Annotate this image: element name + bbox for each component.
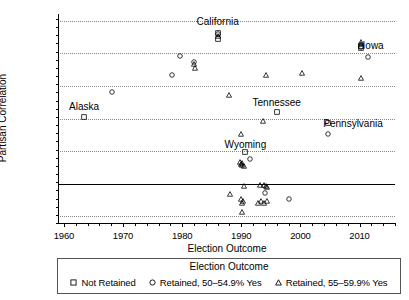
data-point-triangle	[260, 118, 266, 124]
x-tick-minor	[253, 223, 254, 226]
data-point-circle	[246, 156, 252, 162]
x-tick-major	[64, 223, 65, 227]
data-point-triangle	[241, 183, 247, 189]
x-tick-minor	[312, 223, 313, 226]
x-tick-label: 1990	[231, 230, 251, 241]
y-tick-minor	[56, 52, 59, 53]
data-point-circle	[109, 89, 115, 95]
x-tick-label: 1970	[113, 230, 133, 241]
y-tick-minor	[56, 133, 59, 134]
y-axis-spine	[58, 14, 59, 223]
data-point-triangle	[241, 163, 247, 169]
x-tick-minor	[348, 223, 349, 226]
data-point-circle	[365, 54, 371, 60]
y-tick-minor	[56, 158, 59, 159]
data-point-square	[274, 109, 280, 115]
data-point-triangle	[215, 33, 221, 39]
y-tick-minor	[56, 207, 59, 208]
annotation-label: Iowa	[363, 40, 384, 51]
x-tick-minor	[371, 223, 372, 226]
y-tick-minor	[56, 19, 59, 20]
chart-legend: Election Outcome Not RetainedRetained, 5…	[57, 258, 401, 294]
x-axis-label: Election Outcome	[188, 243, 267, 254]
plot-area: CaliforniaIowaAlaskaTennesseePennsylvani…	[58, 14, 395, 223]
x-tick-minor	[111, 223, 112, 226]
y-tick-minor	[56, 43, 59, 44]
data-point-triangle	[262, 72, 268, 78]
data-point-triangle	[264, 184, 270, 190]
chart-figure: Partisan Correlation Election Outcome Ca…	[0, 0, 409, 300]
y-tick-minor	[56, 125, 59, 126]
x-tick-minor	[229, 223, 230, 226]
y-tick-minor	[56, 84, 59, 85]
x-tick-minor	[324, 223, 325, 226]
x-tick-minor	[88, 223, 89, 226]
grid-line-y	[58, 86, 395, 87]
x-tick-minor	[277, 223, 278, 226]
grid-line-y	[58, 53, 395, 54]
data-point-circle	[325, 131, 331, 137]
data-point-triangle	[227, 191, 233, 197]
x-tick-major	[123, 223, 124, 227]
x-tick-minor	[99, 223, 100, 226]
y-tick-minor	[56, 92, 59, 93]
data-point-triangle	[191, 65, 197, 71]
x-tick-label: 1960	[54, 230, 74, 241]
y-tick-minor	[56, 150, 59, 151]
annotation-label: Alaska	[69, 101, 99, 112]
x-tick-label: 2010	[349, 230, 369, 241]
legend-item-circle: Retained, 50–54.9% Yes	[149, 277, 262, 288]
y-tick-minor	[56, 166, 59, 167]
x-axis-spine	[58, 223, 395, 224]
x-tick-major	[182, 223, 183, 227]
legend-item-label: Retained, 50–54.9% Yes	[160, 277, 262, 288]
x-tick-minor	[159, 223, 160, 226]
y-tick-minor	[56, 101, 59, 102]
data-point-circle	[262, 190, 268, 196]
y-tick-minor	[56, 141, 59, 142]
y-tick-minor	[56, 27, 59, 28]
legend-item-triangle: Retained, 55–59.9% Yes	[275, 277, 388, 288]
data-point-triangle	[358, 75, 364, 81]
data-point-circle	[169, 72, 175, 78]
data-point-triangle	[239, 200, 245, 206]
data-point-square	[242, 149, 248, 155]
x-tick-minor	[265, 223, 266, 226]
x-tick-minor	[336, 223, 337, 226]
y-tick-minor	[56, 174, 59, 175]
y-tick-minor	[56, 60, 59, 61]
y-tick-minor	[56, 109, 59, 110]
data-point-triangle	[298, 70, 304, 76]
y-tick-minor	[56, 215, 59, 216]
x-tick-minor	[218, 223, 219, 226]
x-tick-minor	[135, 223, 136, 226]
y-tick-minor	[56, 76, 59, 77]
x-tick-minor	[383, 223, 384, 226]
x-tick-minor	[170, 223, 171, 226]
x-tick-minor	[76, 223, 77, 226]
x-tick-major	[360, 223, 361, 227]
y-tick-minor	[56, 223, 59, 224]
legend-items: Not RetainedRetained, 50–54.9% YesRetain…	[58, 277, 400, 288]
y-tick-minor	[56, 68, 59, 69]
annotation-label: Pennsylvania	[323, 117, 382, 128]
data-point-triangle	[226, 92, 232, 98]
x-tick-minor	[206, 223, 207, 226]
x-tick-major	[300, 223, 301, 227]
x-tick-label: 2000	[290, 230, 310, 241]
data-point-triangle	[238, 131, 244, 137]
x-tick-minor	[289, 223, 290, 226]
legend-marker-triangle-icon	[275, 279, 282, 286]
grid-line-y	[58, 216, 395, 217]
zero-reference-line	[58, 184, 395, 185]
annotation-label: Tennessee	[253, 97, 301, 108]
y-tick-minor	[56, 117, 59, 118]
y-tick-minor	[56, 190, 59, 191]
x-tick-minor	[147, 223, 148, 226]
y-tick-minor	[56, 35, 59, 36]
x-tick-major	[241, 223, 242, 227]
data-point-circle	[177, 53, 183, 59]
annotation-label: Wyoming	[225, 138, 267, 149]
legend-marker-circle-icon	[149, 279, 156, 286]
data-point-triangle	[264, 198, 270, 204]
